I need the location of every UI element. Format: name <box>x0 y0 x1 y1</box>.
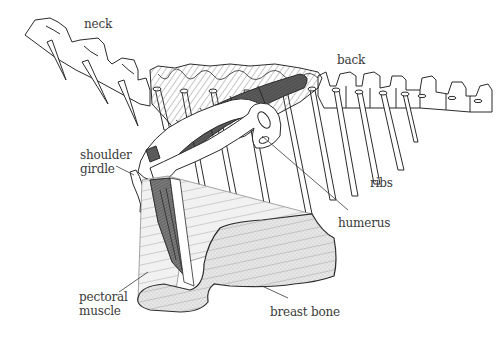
label-ribs: ribs <box>370 176 393 190</box>
bird-flight-anatomy-diagram: neck back shoulder girdle ribs humerus p… <box>0 0 504 337</box>
breast-bone-leader <box>262 286 288 298</box>
label-pectoral-muscle: pectoral muscle <box>79 290 128 318</box>
label-shoulder-girdle: shoulder girdle <box>80 148 132 176</box>
skeleton-illustration <box>0 0 504 337</box>
label-neck: neck <box>84 17 112 31</box>
neck-vertebrae <box>25 18 150 126</box>
label-breast-bone: breast bone <box>270 305 340 319</box>
label-back: back <box>337 53 365 67</box>
label-humerus: humerus <box>338 216 390 230</box>
